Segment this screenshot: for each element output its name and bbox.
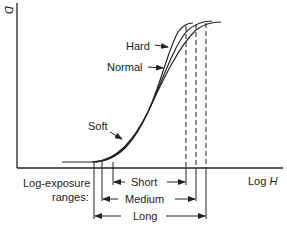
x-axis-label: Log H xyxy=(248,175,277,187)
curve-normal xyxy=(92,21,212,162)
soft-pointer-arrow xyxy=(110,132,122,139)
range-label-long: Long xyxy=(133,210,157,222)
curve-label-soft: Soft xyxy=(88,120,108,132)
range-label-medium: Medium xyxy=(125,193,164,205)
y-axis-label: D xyxy=(3,6,15,14)
ranges-label-line2: ranges: xyxy=(52,191,89,203)
characteristic-curve-diagram: D Log H Hard Normal Soft Log-exposure ra… xyxy=(0,0,287,231)
hard-pointer-arrow xyxy=(155,45,168,47)
curve-label-hard: Hard xyxy=(126,40,150,52)
curve-label-normal: Normal xyxy=(107,61,142,73)
ranges-label-line1: Log-exposure xyxy=(23,177,90,189)
normal-pointer-arrow xyxy=(148,67,163,68)
range-label-short: Short xyxy=(131,176,157,188)
